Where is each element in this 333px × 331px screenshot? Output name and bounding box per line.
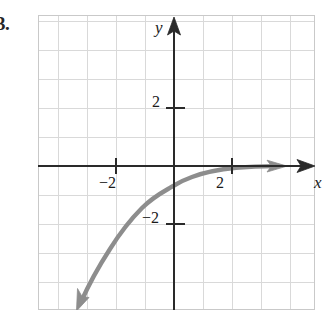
x-tick-label-negative-2: −2 xyxy=(99,175,116,191)
curve-main xyxy=(80,186,174,303)
x-tick-label-2: 2 xyxy=(216,175,224,191)
y-tick-label-negative-2: −2 xyxy=(142,210,159,226)
y-axis-label: y xyxy=(155,19,163,36)
x-axis xyxy=(38,160,315,173)
y-tick-label-2: 2 xyxy=(152,94,160,110)
coordinate-plane xyxy=(38,15,315,310)
x-axis-label: x xyxy=(314,174,322,191)
plot-canvas xyxy=(38,15,315,310)
page-bleed-text xyxy=(72,0,252,9)
exercise-number-label: 3. xyxy=(0,14,9,33)
exercise-figure: 3. xyxy=(0,0,333,331)
